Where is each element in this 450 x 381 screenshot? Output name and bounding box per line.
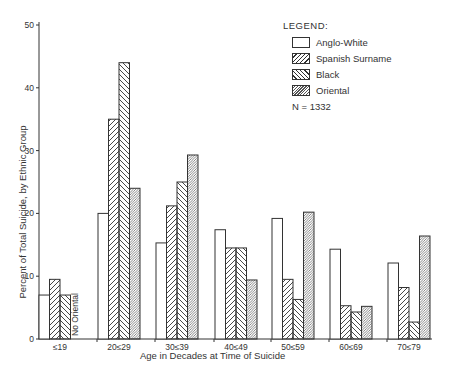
y-tick-label: 50 bbox=[25, 20, 35, 30]
bar-spanish-surname bbox=[226, 248, 237, 339]
legend-label: Spanish Surname bbox=[316, 53, 392, 64]
bar-oriental bbox=[420, 236, 431, 339]
bar-oriental bbox=[304, 212, 315, 339]
no-oriental-annotation: No Oriental bbox=[70, 293, 80, 336]
legend-title: LEGEND: bbox=[283, 20, 392, 31]
legend-item-anglo-white: Anglo-White bbox=[283, 34, 392, 50]
bar-black bbox=[119, 63, 130, 339]
x-axis-label: Age in Decades at Time of Suicide bbox=[140, 350, 285, 361]
bar-oriental bbox=[247, 280, 258, 339]
legend-item-oriental: Oriental bbox=[283, 82, 392, 98]
bar-oriental bbox=[188, 155, 199, 339]
bar-black bbox=[236, 248, 247, 339]
bar-anglo-white bbox=[388, 263, 399, 339]
bar-anglo-white bbox=[39, 295, 50, 339]
y-tick-label: 0 bbox=[29, 334, 34, 344]
legend-item-black: Black bbox=[283, 66, 392, 82]
bar-black bbox=[293, 299, 304, 339]
legend-label: Black bbox=[316, 69, 339, 80]
bar-anglo-white bbox=[98, 213, 109, 339]
bar-spanish-surname bbox=[283, 279, 294, 339]
bar-anglo-white bbox=[330, 249, 341, 339]
bar-anglo-white bbox=[272, 218, 283, 339]
x-tick-label: ≤19 bbox=[53, 342, 67, 352]
sample-size-label: N = 1332 bbox=[283, 101, 392, 112]
legend: LEGEND: Anglo-White Spanish Surname Blac… bbox=[283, 20, 392, 112]
bar-spanish-surname bbox=[341, 306, 352, 339]
bar-anglo-white bbox=[215, 230, 226, 339]
bar-oriental bbox=[362, 306, 373, 339]
legend-swatch-hatch-backward-icon bbox=[292, 69, 310, 80]
bar-black bbox=[351, 312, 362, 339]
bar-oriental bbox=[130, 188, 141, 339]
x-tick-label: 60≤69 bbox=[339, 342, 363, 352]
bar-black bbox=[409, 322, 420, 339]
legend-label: Anglo-White bbox=[316, 37, 368, 48]
bar-black bbox=[177, 182, 188, 339]
bar-spanish-surname bbox=[50, 279, 61, 339]
bar-anglo-white bbox=[156, 243, 167, 339]
legend-swatch-hatch-dense-icon bbox=[292, 85, 310, 96]
legend-swatch-hatch-forward-icon bbox=[292, 53, 310, 64]
y-axis-label: Percent of Total Suicide, by Ethnic Grou… bbox=[17, 125, 28, 298]
legend-item-spanish-surname: Spanish Surname bbox=[283, 50, 392, 66]
legend-label: Oriental bbox=[316, 85, 349, 96]
x-tick-label: 70≤79 bbox=[397, 342, 421, 352]
bar-spanish-surname bbox=[109, 119, 120, 339]
bar-spanish-surname bbox=[167, 206, 178, 339]
bar-spanish-surname bbox=[399, 288, 410, 339]
x-tick-label: 20≤29 bbox=[107, 342, 131, 352]
y-tick-label: 40 bbox=[25, 83, 35, 93]
legend-swatch-empty-icon bbox=[292, 37, 310, 48]
